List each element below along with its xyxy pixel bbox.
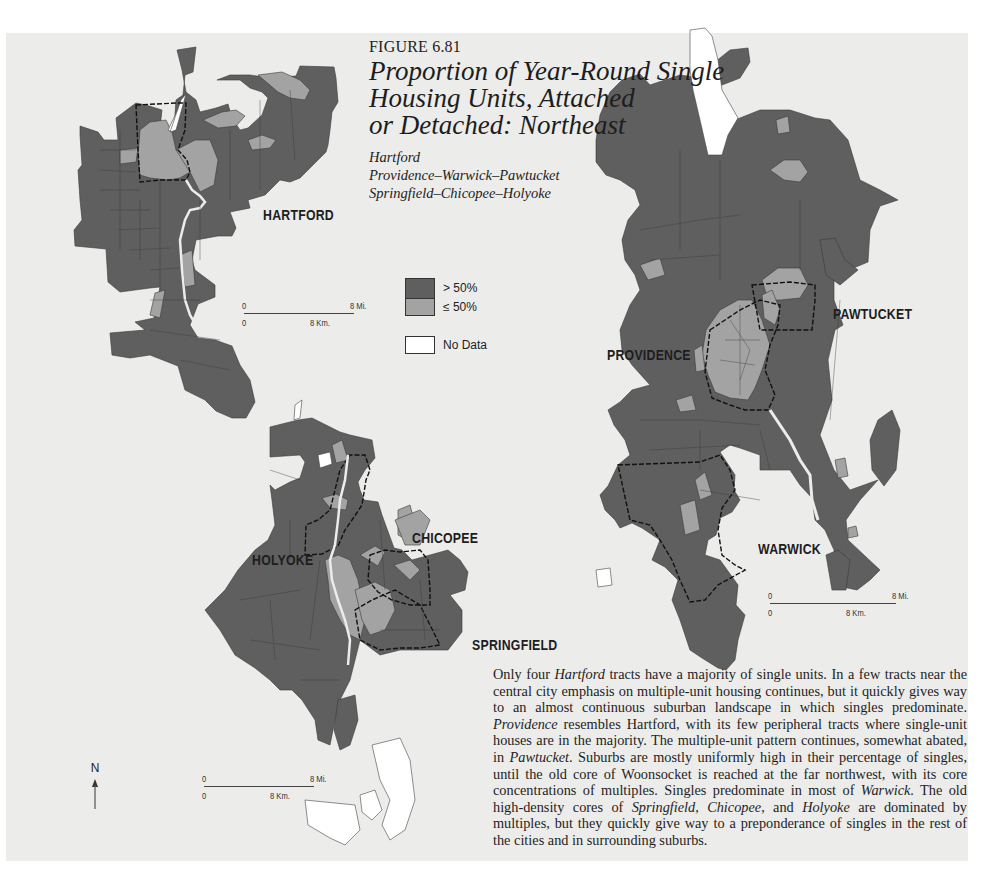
subtitle-springfield: Springfield–Chicopee–Holyoke (369, 184, 729, 202)
figure-title-line: or Detached: Northeast (369, 112, 729, 139)
legend-item-above-50: > 50% (405, 278, 477, 298)
caption-place-name: Holyoke (802, 799, 850, 815)
caption-place-name: Chico­pee (707, 799, 761, 815)
label-hartford: HARTFORD (263, 206, 334, 223)
subtitle-hartford: Hartford (369, 148, 729, 166)
hartford-map (74, 47, 338, 418)
label-warwick: WARWICK (758, 540, 821, 557)
figure-title: Proportion of Year-Round Single Housing … (369, 58, 729, 139)
subtitle-providence: Providence–Warwick–Pawtucket (369, 166, 729, 184)
figure-caption: Only four Hartford tracts have a majorit… (493, 666, 967, 849)
legend-swatch-dark (405, 278, 435, 298)
scale-line (770, 603, 896, 604)
caption-place-name: Warwick (861, 782, 911, 798)
caption-place-name: Pawtucket (510, 749, 570, 765)
label-pawtucket: PAWTUCKET (833, 305, 912, 322)
legend-item-below-50: ≤ 50% (405, 298, 477, 316)
legend-swatch-light (405, 298, 435, 316)
scale-line (244, 313, 354, 314)
figure-title-line: Proportion of Year-Round Single (369, 58, 729, 85)
caption-place-name: Providence (493, 716, 558, 732)
north-arrow: N (88, 761, 102, 814)
figure-number: FIGURE 6.81 (369, 38, 729, 56)
scale-line (204, 786, 314, 787)
springfield-map (205, 400, 468, 845)
caption-text: Only four (493, 666, 555, 682)
figure-title-line: Housing Units, Attached (369, 85, 729, 112)
north-arrow-icon (88, 775, 102, 811)
hartford-suburbs (74, 47, 338, 418)
figure-subtitles: Hartford Providence–Warwick–Pawtucket Sp… (369, 148, 729, 202)
figure-heading: FIGURE 6.81 Proportion of Year-Round Sin… (369, 38, 729, 202)
legend-swatch-white (405, 336, 435, 354)
caption-text: , (695, 799, 707, 815)
caption-text: , and (761, 799, 802, 815)
label-chicopee: CHICOPEE (412, 529, 478, 546)
label-springfield: SPRINGFIELD (472, 636, 557, 653)
caption-place-name: Springfield (632, 799, 696, 815)
label-providence: PROVIDENCE (607, 346, 691, 363)
legend-item-no-data: No Data (405, 336, 487, 354)
north-label: N (88, 761, 102, 775)
caption-place-name: Hartford (555, 666, 605, 682)
label-holyoke: HOLYOKE (252, 551, 313, 568)
